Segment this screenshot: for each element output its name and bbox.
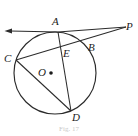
point-label-D: D (72, 112, 80, 123)
point-label-B: B (88, 42, 95, 53)
tangent-A-to-P (58, 27, 126, 32)
point-label-P: P (126, 21, 133, 32)
figure-caption: Fig. 17 (0, 125, 138, 133)
center-dot-icon (49, 71, 53, 75)
geometry-figure: A B C D E O P Fig. 17 (0, 0, 138, 136)
point-label-O: O (38, 67, 46, 78)
geometry-canvas (0, 0, 138, 136)
point-label-E: E (63, 48, 70, 59)
tangent-arrowhead-icon (5, 28, 13, 33)
tangent-ray-left (10, 31, 58, 32)
point-label-A: A (52, 16, 59, 27)
circle-O (14, 32, 96, 114)
point-label-C: C (4, 53, 11, 64)
